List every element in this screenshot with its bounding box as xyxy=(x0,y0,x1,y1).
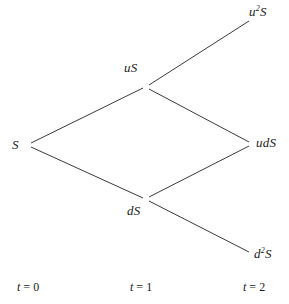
node-label-uds: udS xyxy=(256,136,276,149)
edge-s-to-us xyxy=(31,88,143,143)
time-var-1: t xyxy=(130,280,133,294)
time-value-2: 2 xyxy=(259,280,265,294)
time-var-2: t xyxy=(243,280,246,294)
node-label-s: S xyxy=(12,138,19,151)
time-axis-label-1: t = 1 xyxy=(130,281,152,293)
node-label-u2s: u2S xyxy=(249,5,267,18)
node-label-d2s-prefix: d xyxy=(254,246,261,261)
time-value-0: 0 xyxy=(33,280,39,294)
node-label-u2s-suffix: S xyxy=(260,4,267,19)
edge-ds-to-d2s xyxy=(149,201,249,252)
time-axis-label-0: t = 0 xyxy=(17,281,39,293)
node-label-ds: dS xyxy=(127,204,140,217)
tree-edges-canvas xyxy=(0,0,289,304)
time-var-0: t xyxy=(17,280,20,294)
node-label-d2s: d2S xyxy=(254,247,272,260)
time-axis-label-2: t = 2 xyxy=(243,281,265,293)
node-label-d2s-suffix: S xyxy=(265,246,272,261)
time-value-1: 1 xyxy=(146,280,152,294)
edge-us-to-uds xyxy=(149,89,249,142)
edge-ds-to-uds xyxy=(149,146,249,197)
node-label-u2s-prefix: u xyxy=(249,4,256,19)
binomial-tree-figure: u2S uS S udS dS d2S t = 0 t = 1 t = 2 xyxy=(0,0,289,304)
edge-s-to-ds xyxy=(31,147,143,198)
edge-us-to-u2s xyxy=(149,21,249,85)
node-label-us: uS xyxy=(124,61,137,74)
